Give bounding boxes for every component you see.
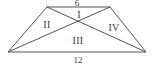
left-leg-line: [8, 7, 47, 52]
top-side-length-label: 6: [75, 0, 80, 8]
region-four-label: IV: [108, 23, 119, 33]
bottom-side-length-label: 12: [74, 56, 83, 65]
region-two-label: II: [43, 20, 50, 30]
region-one-label: I: [77, 10, 81, 20]
geometry-figure: 6 12 I II III IV: [0, 0, 154, 68]
diagonal-topleft-to-bottomright: [47, 7, 146, 52]
region-three-label: III: [73, 36, 84, 46]
diagonal-topright-to-bottomleft: [8, 7, 110, 52]
